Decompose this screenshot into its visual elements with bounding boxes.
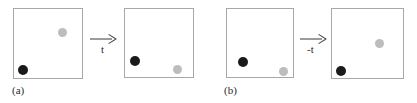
panel-a-label: (a)	[12, 85, 24, 96]
panel-a-box-final	[124, 8, 194, 78]
dark-particle	[130, 56, 140, 66]
dark-particle	[18, 65, 28, 75]
light-particle	[375, 39, 384, 48]
panel-a-box-initial	[13, 8, 83, 79]
panel-a: t (a)	[0, 0, 205, 103]
panel-b-box-initial	[226, 8, 294, 78]
dark-particle	[336, 66, 346, 76]
dark-particle	[238, 57, 248, 67]
figure-root: t (a) -t (b)	[0, 0, 417, 103]
panel-b-box-final	[331, 8, 404, 79]
forward-time-arrow-label: t	[101, 44, 104, 55]
reverse-time-arrow-label: -t	[307, 44, 314, 55]
light-particle	[279, 67, 288, 76]
panel-b-label: (b)	[224, 85, 237, 96]
light-particle	[58, 28, 67, 37]
panel-b: -t (b)	[212, 0, 417, 103]
light-particle	[173, 65, 182, 74]
